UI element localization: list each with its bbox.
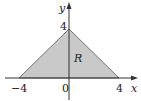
x-axis-arrow-icon (131, 76, 138, 81)
y-tick-4: 4 (60, 20, 67, 33)
region-label: R (73, 52, 82, 65)
y-axis-label: y (58, 2, 66, 15)
x-tick-neg4: −4 (11, 82, 27, 95)
region-diagram: y x 4 −4 0 4 R (0, 0, 141, 101)
y-axis-arrow-icon (67, 2, 72, 9)
x-tick-0: 0 (62, 82, 69, 95)
x-axis-label: x (131, 82, 138, 95)
x-tick-4: 4 (116, 82, 123, 95)
